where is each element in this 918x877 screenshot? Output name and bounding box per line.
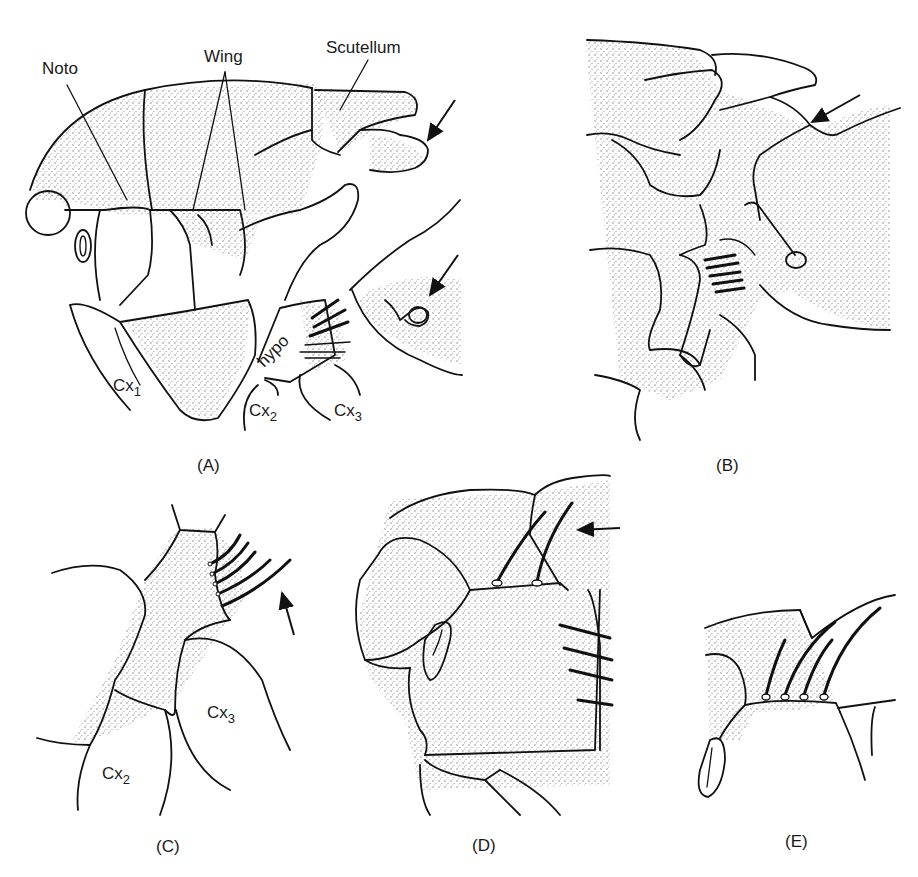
panel-b-drawing	[585, 40, 900, 440]
figure-drawings	[0, 0, 918, 877]
panel-d-drawing	[356, 475, 620, 815]
caption-a: (A)	[197, 457, 220, 474]
label-noto: Noto	[42, 60, 78, 77]
label-cx1: Cx1	[113, 377, 141, 394]
label-c-cx2: Cx2	[102, 765, 130, 782]
caption-e: (E)	[785, 833, 808, 850]
anatomy-figure: Noto Wing Scutellum hypo Cx1 Cx2 Cx3 (A)…	[0, 0, 918, 877]
caption-b: (B)	[716, 457, 739, 474]
caption-c: (C)	[156, 838, 180, 855]
label-cx3: Cx3	[334, 402, 362, 419]
label-c-cx3: Cx3	[207, 704, 235, 721]
label-cx2: Cx2	[249, 402, 277, 419]
label-wing: Wing	[204, 48, 243, 65]
panel-e-drawing	[699, 595, 895, 797]
panel-c-drawing	[37, 505, 294, 815]
label-scutellum: Scutellum	[326, 39, 401, 56]
caption-d: (D)	[472, 837, 496, 854]
panel-a-drawing	[26, 60, 462, 430]
